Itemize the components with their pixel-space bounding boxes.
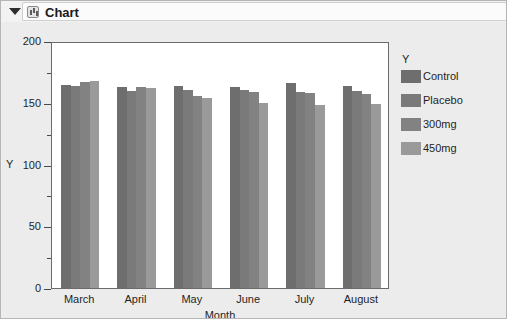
bar[interactable] xyxy=(305,93,315,288)
x-tick-label: July xyxy=(276,293,332,305)
x-axis-title: Month xyxy=(51,309,389,319)
bar[interactable] xyxy=(343,86,353,288)
chart-node-icon xyxy=(27,6,39,18)
bar[interactable] xyxy=(174,86,184,288)
y-tick xyxy=(44,42,51,43)
y-tick-label: 0 xyxy=(35,282,41,294)
window-title-bar: Chart xyxy=(1,1,507,22)
bar-group xyxy=(174,43,212,288)
legend-title: Y xyxy=(402,53,409,65)
y-tick-label: 100 xyxy=(23,159,41,171)
legend-label: 300mg xyxy=(423,118,457,131)
bar[interactable] xyxy=(90,81,100,288)
page-title: Chart xyxy=(45,4,79,21)
bar[interactable] xyxy=(240,90,250,288)
y-tick xyxy=(44,104,51,105)
legend-label: Placebo xyxy=(423,94,463,107)
bar[interactable] xyxy=(352,91,362,288)
bar[interactable] xyxy=(249,92,259,288)
legend-swatch xyxy=(401,118,421,131)
bar[interactable] xyxy=(136,87,146,288)
legend-swatch xyxy=(401,70,421,83)
bar-group xyxy=(343,43,381,288)
bar[interactable] xyxy=(371,104,381,288)
y-tick-label: 200 xyxy=(23,35,41,47)
chart-canvas: Y 050100150200 MarchAprilMayJuneJulyAugu… xyxy=(2,22,507,319)
bar[interactable] xyxy=(230,87,240,288)
bar-group xyxy=(61,43,99,288)
bar-group xyxy=(286,43,324,288)
legend-label: Control xyxy=(423,70,458,83)
bar[interactable] xyxy=(117,87,127,288)
y-axis-title: Y xyxy=(6,158,13,170)
triangle-down-icon[interactable] xyxy=(9,8,21,15)
bar[interactable] xyxy=(61,85,71,288)
x-tick-label: March xyxy=(51,293,107,305)
chart-window: Chart Y 050100150200 MarchAprilMayJuneJu… xyxy=(0,0,507,319)
y-tick xyxy=(44,227,51,228)
plot-area xyxy=(51,42,389,289)
bar-group xyxy=(117,43,155,288)
y-tick xyxy=(44,289,51,290)
x-tick-label: August xyxy=(333,293,389,305)
legend-swatch xyxy=(401,94,421,107)
bar[interactable] xyxy=(193,96,203,288)
bar[interactable] xyxy=(315,105,325,288)
bar[interactable] xyxy=(183,90,193,288)
bar[interactable] xyxy=(296,92,306,288)
y-tick-label: 150 xyxy=(23,97,41,109)
legend-swatch xyxy=(401,142,421,155)
bar[interactable] xyxy=(71,86,81,288)
bar[interactable] xyxy=(362,94,372,288)
x-tick-label: April xyxy=(107,293,163,305)
title-plate[interactable]: Chart xyxy=(22,2,507,21)
x-tick-label: June xyxy=(220,293,276,305)
legend-label: 450mg xyxy=(423,142,457,155)
bar[interactable] xyxy=(259,103,269,288)
bar-group xyxy=(230,43,268,288)
y-tick-label: 50 xyxy=(29,220,41,232)
bar[interactable] xyxy=(127,91,137,288)
bar[interactable] xyxy=(286,83,296,288)
bar[interactable] xyxy=(80,82,90,288)
x-tick-label: May xyxy=(164,293,220,305)
y-tick xyxy=(44,166,51,167)
bar[interactable] xyxy=(146,88,156,288)
bar[interactable] xyxy=(202,98,212,288)
